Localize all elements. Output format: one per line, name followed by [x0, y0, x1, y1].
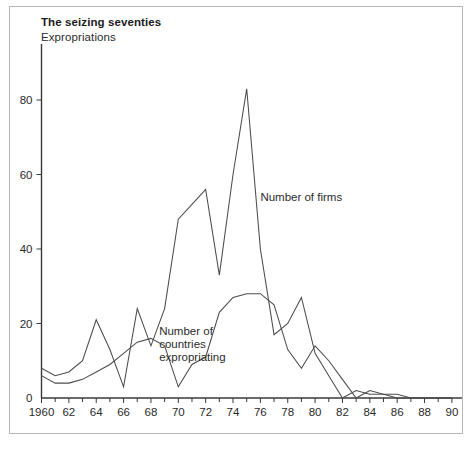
annotation-number-of-countries-line-3: expropriating [159, 351, 225, 363]
x-tick-label: 84 [363, 406, 376, 418]
x-axis: 1960626466687072747678808284868890 [29, 398, 462, 418]
chart-figure: The seizing seventies Expropriations 020… [0, 0, 472, 452]
annotation-number-of-countries-line-2: countries [159, 338, 206, 350]
x-tick-label: 68 [145, 406, 158, 418]
x-tick-label: 90 [446, 406, 459, 418]
x-tick-label: 76 [254, 406, 267, 418]
x-tick-label: 80 [309, 406, 322, 418]
y-tick-label: 40 [20, 243, 33, 255]
series-line-firms [42, 89, 452, 398]
y-tick-label: 60 [20, 169, 33, 181]
y-tick-label: 0 [26, 392, 32, 404]
y-tick-label: 80 [20, 94, 33, 106]
x-tick-label: 82 [336, 406, 349, 418]
y-axis: 020406080 [20, 44, 42, 404]
series-lines [42, 89, 452, 398]
annotation-number-of-firms: Number of firms [260, 191, 342, 203]
annotation-number-of-countries-line-1: Number of [159, 325, 213, 337]
plot-area: 020406080 196062646668707274767880828486… [0, 0, 472, 452]
x-tick-label: 78 [281, 406, 294, 418]
x-tick-label: 1960 [29, 406, 55, 418]
x-tick-label: 86 [391, 406, 404, 418]
x-tick-label: 74 [227, 406, 240, 418]
x-tick-label: 62 [62, 406, 75, 418]
x-tick-label: 66 [117, 406, 130, 418]
x-tick-label: 72 [199, 406, 212, 418]
x-tick-label: 88 [418, 406, 431, 418]
x-tick-label: 70 [172, 406, 185, 418]
x-tick-label: 64 [90, 406, 103, 418]
series-annotations: Number of firmsNumber ofcountriesexpropr… [159, 191, 342, 364]
y-tick-label: 20 [20, 318, 33, 330]
series-line-countries [42, 294, 452, 398]
